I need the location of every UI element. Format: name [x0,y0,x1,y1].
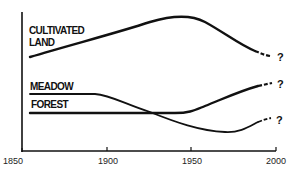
x-tick-label-2000: 2000 [266,156,286,166]
series-cultivated-land [30,17,255,57]
series-forest-projection [258,83,272,86]
series-meadow-projection [258,118,271,122]
cultivated-question-mark: ? [277,51,284,63]
series-cultivated-land-projection [255,51,270,56]
label-meadow: MEADOW [30,81,74,92]
land-use-chart: 1850 1900 1950 2000 CULTIVATED LAND MEAD… [0,0,298,174]
label-cultivated-line1: CULTIVATED [29,25,84,36]
meadow-question-mark: ? [276,114,283,126]
x-tick-label-1900: 1900 [98,156,118,166]
label-forest: FOREST [31,99,68,110]
forest-question-mark: ? [277,78,284,90]
x-tick-label-1950: 1950 [182,156,202,166]
label-cultivated-line2: LAND [29,37,55,48]
x-tick-label-1850: 1850 [3,156,23,166]
